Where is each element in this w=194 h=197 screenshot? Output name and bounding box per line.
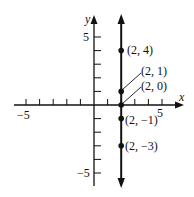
label-2-neg3: (2, −3) [125, 139, 158, 153]
y-axis-arrow-icon [91, 15, 98, 24]
y-axis-label: y [84, 12, 91, 26]
point-2-neg1 [118, 116, 124, 122]
y-tick-label-5: 5 [83, 30, 89, 44]
x-tick-label-neg5: −5 [17, 108, 30, 122]
label-2-neg1: (2, −1) [125, 113, 158, 127]
label-2-4: (2, 4) [127, 43, 153, 57]
point-2-neg3 [118, 143, 124, 149]
label-2-0: (2, 0) [141, 79, 167, 93]
x-tick-label-5: 5 [157, 106, 163, 120]
leader-2-0 [122, 87, 141, 104]
point-2-4 [118, 48, 124, 54]
label-2-1: (2, 1) [141, 64, 167, 78]
line-up-arrow-icon [118, 14, 125, 24]
line-down-arrow-icon [118, 178, 125, 188]
x-axis-label: x [178, 90, 185, 104]
coordinate-plane: y x −5 5 5 −5 (2, 4) (2, 1) (2, 0) (2, −… [0, 0, 194, 197]
leader-2-1 [122, 73, 141, 90]
y-tick-label-neg5: −5 [77, 166, 90, 180]
